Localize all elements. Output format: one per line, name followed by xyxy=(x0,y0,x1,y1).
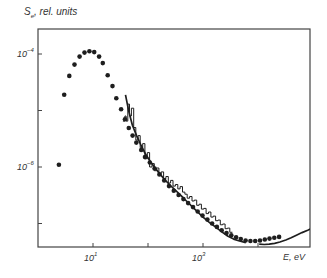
data-point xyxy=(97,54,102,59)
data-point xyxy=(267,236,272,241)
data-point xyxy=(110,84,115,89)
x-tick-label-1e3: 103 xyxy=(192,252,205,263)
data-point xyxy=(82,50,87,55)
data-point xyxy=(134,140,139,145)
data-point xyxy=(272,235,277,240)
axis-ticks xyxy=(38,54,258,247)
data-point xyxy=(114,96,119,101)
chart-canvas xyxy=(0,0,327,278)
data-point xyxy=(248,239,253,244)
series-dots xyxy=(57,49,282,243)
data-point xyxy=(127,126,132,131)
data-point xyxy=(258,238,263,243)
data-point xyxy=(92,50,97,55)
data-point xyxy=(105,73,110,78)
series-high-energy-curve xyxy=(259,228,313,245)
data-point xyxy=(72,62,77,67)
y-tick-label-1e-4: 10−4 xyxy=(17,48,34,59)
y-axis-title: Se, rel. units xyxy=(24,6,77,19)
series-smooth-curve xyxy=(126,95,246,243)
y-tick-label-1e-6: 10−6 xyxy=(17,161,34,172)
data-point xyxy=(253,239,258,244)
data-point xyxy=(57,162,62,167)
data-point xyxy=(263,237,268,242)
data-point xyxy=(77,54,82,59)
plot-frame xyxy=(38,29,310,247)
series-histogram xyxy=(123,104,232,232)
plot-border xyxy=(38,29,310,247)
data-point xyxy=(87,49,92,54)
data-point xyxy=(67,74,72,79)
data-point xyxy=(101,61,106,66)
x-tick-label-1e1: 101 xyxy=(84,252,97,263)
series-layer xyxy=(57,49,313,245)
data-point xyxy=(277,235,282,240)
data-point xyxy=(119,107,124,112)
data-point xyxy=(62,93,67,98)
data-point xyxy=(130,133,135,138)
x-axis-title: E, eV xyxy=(283,252,305,262)
